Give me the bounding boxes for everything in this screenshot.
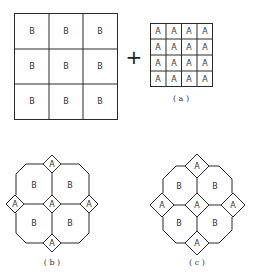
cell-a-label: A xyxy=(155,59,161,68)
octagon-b-label: B xyxy=(31,219,37,228)
diamond-a-label: A xyxy=(12,200,18,209)
cell-a-label: A xyxy=(186,59,192,68)
diamond-a-label: A xyxy=(194,239,200,248)
caption-a: ( a ) xyxy=(173,94,189,103)
cell-a-label: A xyxy=(202,59,208,68)
cell-a-label: A xyxy=(202,75,208,84)
figure-a-small-grid: A A A A A A A A A A A A A A A A xyxy=(151,24,213,87)
cell-b-label: B xyxy=(97,27,103,36)
octagon-b-label: B xyxy=(212,182,218,191)
diamond-a-label: A xyxy=(159,201,165,210)
cell-b-label: B xyxy=(63,97,69,106)
cell-a-label: A xyxy=(155,75,161,84)
octagon-b-label: B xyxy=(31,181,37,190)
octagon-b-label: B xyxy=(67,219,73,228)
cell-a-label: A xyxy=(186,27,192,36)
cell-a-label: A xyxy=(186,75,192,84)
cell-a-label: A xyxy=(202,43,208,52)
caption-b: ( b ) xyxy=(44,258,60,267)
cell-a-label: A xyxy=(171,43,177,52)
cell-a-label: A xyxy=(155,27,161,36)
cell-b-label: B xyxy=(29,97,35,106)
diamond-a-label: A xyxy=(230,201,236,210)
cell-b-label: B xyxy=(63,62,69,71)
cell-b-label: B xyxy=(29,62,35,71)
cell-a-label: A xyxy=(202,27,208,36)
tiling-diagram: B B B B B B B B B + A A A A A A A A A A … xyxy=(0,0,257,272)
diamond-a-label: A xyxy=(194,201,200,210)
octagon-b-label: B xyxy=(67,181,73,190)
diamond-a-label: A xyxy=(49,200,55,209)
figure-c: A A A A A B B B B xyxy=(150,154,245,255)
cell-b-label: B xyxy=(63,27,69,36)
diamond-a-label: A xyxy=(49,239,55,248)
cell-a-label: A xyxy=(186,43,192,52)
octagon-b-label: B xyxy=(212,219,218,228)
caption-c: ( c ) xyxy=(189,258,205,267)
cell-b-label: B xyxy=(97,97,103,106)
diamond-a-label: A xyxy=(49,160,55,169)
cell-a-label: A xyxy=(171,75,177,84)
figure-a-big-grid: B B B B B B B B B xyxy=(15,14,118,120)
octagon-b-label: B xyxy=(176,219,182,228)
cell-a-label: A xyxy=(155,43,161,52)
diamond-a-label: A xyxy=(86,200,92,209)
plus-operator: + xyxy=(126,45,143,69)
cell-b-label: B xyxy=(29,27,35,36)
figure-b: A A A A A B B B B xyxy=(6,155,98,252)
octagon-b-label: B xyxy=(176,182,182,191)
diamond-a-label: A xyxy=(194,162,200,171)
cell-a-label: A xyxy=(171,27,177,36)
cell-a-label: A xyxy=(171,59,177,68)
cell-b-label: B xyxy=(97,62,103,71)
